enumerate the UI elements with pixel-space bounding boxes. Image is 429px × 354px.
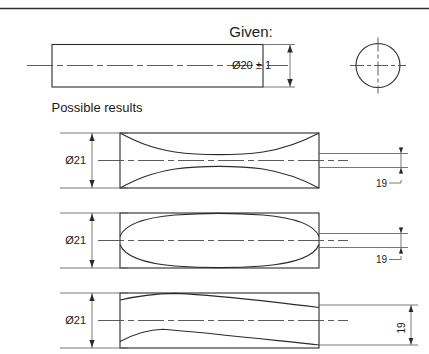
result-3-figure: Ø21 19 (60, 293, 418, 348)
result-2-top-profile (120, 214, 319, 237)
result-1-bottom-profile (120, 166, 319, 188)
result-3-max-arrow-top (89, 294, 94, 302)
result-2-min-dimension: 19 (319, 227, 408, 265)
given-title: Given: (229, 23, 272, 40)
result-1-max-arrow-top (89, 134, 94, 142)
result-1-min-dimension: 19 (319, 147, 408, 189)
result-1-min-label: 19 (376, 178, 388, 189)
given-dim-arrow-top (287, 45, 293, 53)
result-3-bottom-profile (120, 329, 319, 345)
result-3-max-arrow-bottom (89, 340, 94, 348)
given-dim-arrow-bottom (287, 79, 293, 87)
result-2-max-arrow-bottom (89, 260, 94, 268)
result-1-min-arrow-top (399, 148, 403, 154)
drawing-page: Given: Ø20 ± 1 Possible results (0, 0, 429, 354)
result-1-top-profile (120, 133, 319, 155)
possible-results-heading: Possible results (51, 100, 143, 115)
result-3-min-arrow-top (409, 306, 414, 313)
result-2-max-label: Ø21 (65, 234, 86, 246)
result-1-figure: Ø21 19 (60, 133, 408, 189)
result-2-min-arrow-top (399, 228, 403, 234)
result-1-max-label: Ø21 (65, 154, 86, 166)
result-1-min-arrow-bottom (399, 168, 403, 174)
given-dim-label: Ø20 ± 1 (232, 59, 271, 71)
result-3-top-profile (120, 293, 319, 307)
result-2-min-arrow-bottom (399, 248, 403, 254)
technical-drawing-canvas: Given: Ø20 ± 1 Possible results (0, 0, 429, 354)
result-2-bottom-profile (120, 245, 319, 268)
result-3-min-dimension: 19 (319, 305, 418, 345)
result-2-figure: Ø21 19 (60, 213, 408, 268)
result-3-min-label: 19 (396, 322, 407, 334)
result-3-min-arrow-bottom (409, 338, 414, 345)
result-3-max-label: Ø21 (65, 314, 86, 326)
result-2-max-arrow-top (89, 214, 94, 222)
given-end-view (350, 38, 406, 94)
result-2-min-label: 19 (376, 254, 388, 265)
result-1-max-arrow-bottom (89, 180, 94, 188)
